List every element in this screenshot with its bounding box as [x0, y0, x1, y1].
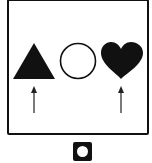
up-arrow-icon [31, 86, 37, 113]
inner-circle [77, 146, 88, 157]
triangle-icon [13, 43, 55, 79]
shapes-layer [0, 0, 152, 163]
square-with-circle-icon [73, 142, 92, 161]
heart-icon [101, 42, 143, 79]
up-arrow-icon [118, 86, 124, 113]
circle-icon [61, 44, 96, 79]
